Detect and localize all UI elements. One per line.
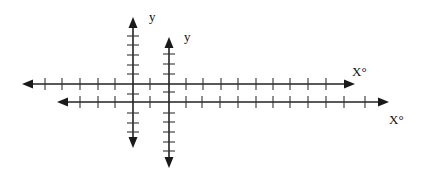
x-axis-a-label: X° [352,64,367,79]
x-axis-b-label: X° [389,112,404,127]
dual-coordinate-axes-diagram: X° y X° y [0,0,421,175]
y-axis-a-label: y [149,9,156,24]
y-axis-b-up-arrow-icon [165,37,174,48]
y-axis-b-down-arrow-icon [165,157,174,168]
x-axis-b-right-arrow-icon [378,98,389,107]
x-axis-a-right-arrow-icon [344,80,355,89]
axis-system-a: X° y [22,9,367,148]
x-axis-a-left-arrow-icon [22,80,33,89]
y-axis-b-label: y [184,29,191,44]
y-axis-a-down-arrow-icon [129,137,138,148]
x-axis-b-left-arrow-icon [57,98,68,107]
y-axis-a-up-arrow-icon [129,17,138,28]
axis-system-b: X° y [57,29,404,168]
